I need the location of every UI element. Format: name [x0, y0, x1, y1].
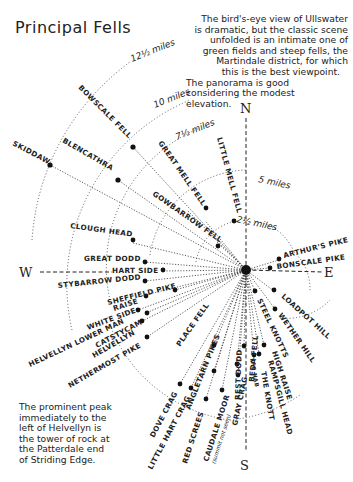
fell-label: BLENCATHRA — [61, 136, 115, 172]
fell-label: STYBARROW DODD — [57, 272, 141, 290]
panorama-diagram: Principal Fells The bird's-eye view of U… — [0, 0, 353, 482]
fell-label: LITTLE MELL FELL — [215, 136, 244, 214]
viewpoint-hub — [241, 265, 251, 275]
fell-label: CLOUGH HEAD — [70, 221, 133, 239]
ring-label-10: 10 miles — [152, 86, 192, 110]
fell-label: GOWBARROW FELL — [151, 189, 224, 244]
fell-label: PLACE FELL — [174, 301, 211, 348]
compass-west: W — [19, 265, 33, 280]
fell-label: GREAT DODD — [84, 254, 141, 263]
panorama-svg: N S W E 12½ miles 10 miles 7½ miles 5 mi… — [0, 0, 353, 482]
compass-east: E — [324, 265, 334, 280]
ring-label-5: 5 miles — [258, 174, 292, 191]
ring-label-12half: 12½ miles — [129, 37, 177, 64]
compass-north: N — [240, 101, 251, 116]
compass-south: S — [240, 458, 249, 473]
ring-label-7half: 7½ miles — [174, 117, 216, 142]
fell-label: SKIDDAW — [11, 139, 52, 166]
ring-label-2half: 2½ miles — [236, 214, 279, 232]
fell-label: REST DODD — [233, 349, 244, 400]
fell-label: BOWSCALE FELL — [77, 83, 134, 140]
